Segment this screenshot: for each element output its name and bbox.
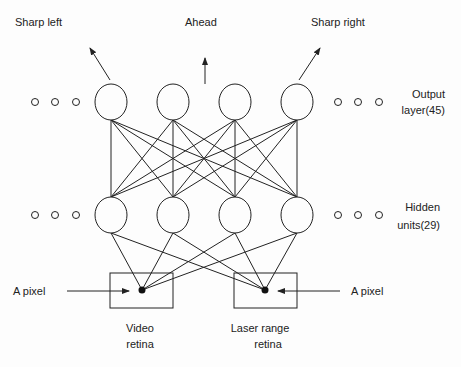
label-sharp-right: Sharp right <box>311 14 365 30</box>
hidden-nodes <box>95 197 313 233</box>
output-ellipsis-left <box>32 99 80 106</box>
output-nodes <box>95 84 313 120</box>
label-ahead: Ahead <box>185 14 217 30</box>
laser-pixel-dot <box>262 287 269 294</box>
arrow-sharp-left <box>90 48 110 80</box>
label-video-retina-1: Video <box>110 320 170 336</box>
label-pixel-left: A pixel <box>13 283 45 299</box>
video-pixel-dot <box>139 287 146 294</box>
label-laser-retina-1: Laser range <box>220 320 300 336</box>
neural-network-diagram: Sharp left Ahead Sharp right Output laye… <box>0 0 461 367</box>
label-video-retina-2: retina <box>110 336 170 352</box>
label-hidden-units-2: units(29) <box>385 217 440 233</box>
hidden-ellipsis-left <box>32 212 80 219</box>
network-graphic <box>0 0 461 367</box>
label-output-layer-1: Output <box>390 86 445 102</box>
label-output-layer-2: layer(45) <box>390 102 445 118</box>
label-hidden-units-1: Hidden <box>385 199 440 215</box>
hidden-input-connections <box>111 233 297 290</box>
label-laser-retina-2: retina <box>228 336 308 352</box>
label-pixel-right: A pixel <box>351 283 383 299</box>
label-sharp-left: Sharp left <box>15 14 62 30</box>
output-ellipsis-right <box>335 99 383 106</box>
arrow-sharp-right <box>299 48 320 80</box>
hidden-ellipsis-right <box>335 212 383 219</box>
output-hidden-connections <box>111 120 297 197</box>
